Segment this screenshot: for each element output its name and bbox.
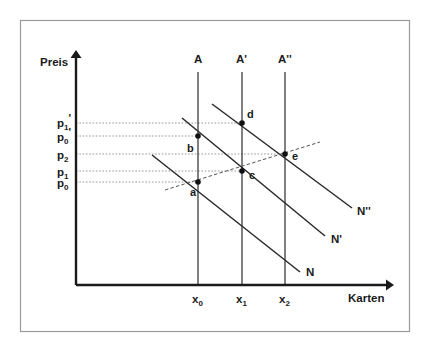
point-label-e: e [292, 150, 298, 162]
demand-label-N-doubleprime: N'' [357, 205, 371, 217]
demand-label-N-prime: N' [331, 233, 342, 245]
supply-label-A: A [194, 53, 202, 65]
point-dot-e [282, 151, 288, 157]
point-dot-c [239, 168, 245, 174]
x-axis-title: Karten [348, 292, 384, 304]
point-label-d: d [247, 108, 254, 120]
supply-label-A-doubleprime: A'' [278, 53, 292, 65]
point-dot-a [195, 179, 201, 185]
point-label-a: a [190, 186, 197, 198]
point-label-c: c [249, 169, 255, 181]
demand-label-N: N [306, 266, 314, 278]
point-dot-d [239, 120, 245, 126]
y-axis-title: Preis [40, 56, 68, 68]
supply-demand-diagram: Preis Karten p1' p0' p2 p1 p0 x0 [0, 0, 430, 352]
point-dot-b [195, 133, 201, 139]
point-label-b: b [187, 142, 194, 154]
figure-root: Preis Karten p1' p0' p2 p1 p0 x0 [0, 0, 430, 352]
supply-label-A-prime: A' [236, 53, 247, 65]
